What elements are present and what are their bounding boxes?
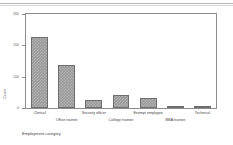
x-axis-tick-label: College trainee [99,118,143,123]
y-axis-tick [22,108,25,109]
bar-slot [107,14,134,108]
bar-series [26,14,216,108]
x-axis-tick-label: Security officer [72,111,116,116]
bar[interactable] [140,98,157,108]
y-axis-tick [22,77,25,78]
bar-slot [162,14,189,108]
y-axis-tick [22,14,25,15]
y-axis-tick-label: 0 [17,106,19,110]
y-axis-title: Count [3,80,7,108]
bar[interactable] [85,100,102,108]
bar[interactable] [31,37,48,108]
x-axis-tick-label: Office trainee [45,118,89,123]
bar-slot [80,14,107,108]
bar-slot [189,14,216,108]
x-axis-tick-label: Technical [180,111,224,116]
bar[interactable] [167,106,184,108]
x-axis-tick-label: MBA trainee [153,118,197,123]
y-axis-tick-label: 300 [13,12,19,16]
y-axis-tick-label: 200 [13,43,19,47]
bar-slot [26,14,53,108]
bar[interactable] [113,95,130,108]
bar-chart: Count 0100200300 ClericalOffice traineeS… [0,0,233,145]
bar-slot [135,14,162,108]
x-axis-title: Employment category [22,131,61,136]
bar-slot [53,14,80,108]
bar[interactable] [194,106,211,108]
y-axis-tick [22,45,25,46]
x-axis-tick-label: Clerical [18,111,62,116]
y-axis: Count [0,0,22,145]
y-axis-tick-label: 100 [13,75,19,79]
bar[interactable] [58,65,75,108]
x-axis-tick-label: Exempt employee [126,111,170,116]
